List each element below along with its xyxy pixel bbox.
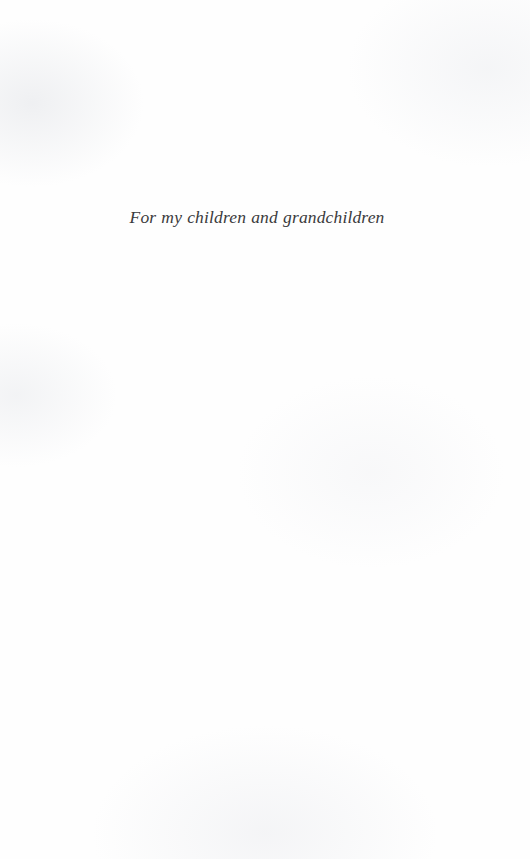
book-page: For my children and grandchildren	[0, 0, 530, 859]
dedication-text: For my children and grandchildren	[0, 205, 530, 229]
page-text-block: For my children and grandchildren	[0, 0, 530, 859]
